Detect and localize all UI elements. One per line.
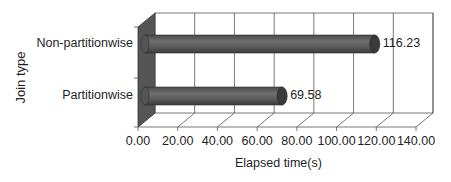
floor-gridline: [297, 113, 314, 127]
bar-end-cap: [370, 35, 380, 53]
x-tick-label: 100.00: [317, 134, 355, 148]
x-tick-label: 0.00: [126, 134, 150, 148]
floor-gridline: [217, 113, 234, 127]
x-tick-label: 40.00: [202, 134, 233, 148]
bar-non-partitionwise: [141, 35, 380, 53]
x-tick-label: 140.00: [397, 134, 435, 148]
bar-start-cap: [141, 87, 149, 105]
bar-body: [145, 87, 282, 105]
chart-walls: [134, 13, 433, 127]
bars: [141, 35, 380, 105]
bar-start-cap: [141, 35, 149, 53]
bar-partitionwise: [141, 87, 287, 105]
floor-gridline: [178, 113, 195, 127]
data-label: 116.23: [383, 36, 420, 50]
category-label: Non-partitionwise: [3, 36, 133, 50]
floor-gridline: [376, 113, 393, 127]
category-label: Partitionwise: [3, 88, 133, 102]
bar-chart: Join type Elapsed time(s) Non-partitionw…: [0, 0, 451, 182]
x-axis-label: Elapsed time(s): [235, 156, 322, 170]
side-wall: [138, 13, 155, 127]
x-tick-label: 80.00: [281, 134, 312, 148]
x-tick-label: 60.00: [242, 134, 273, 148]
bar-body: [145, 35, 375, 53]
data-label: 69.58: [290, 88, 321, 102]
floor-gridline: [416, 113, 433, 127]
bar-end-cap: [277, 87, 287, 105]
floor-gridline: [337, 113, 354, 127]
x-tick-label: 20.00: [162, 134, 193, 148]
x-tick-label: 120.00: [357, 134, 395, 148]
floor-gridline: [257, 113, 274, 127]
